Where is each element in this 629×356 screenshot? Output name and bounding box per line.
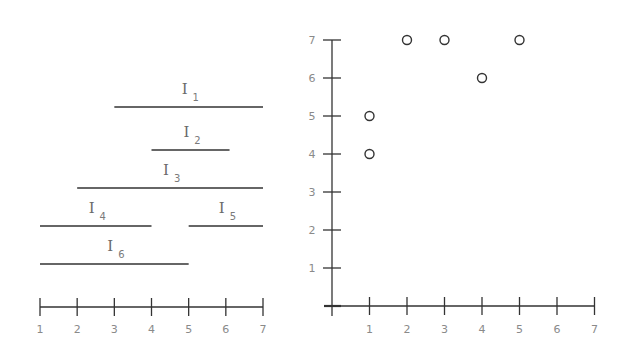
y-tick-label: 6	[309, 72, 316, 85]
x-tick-label: 6	[554, 323, 561, 336]
data-point-marker	[365, 112, 374, 121]
data-point-marker	[403, 36, 412, 45]
x-tick-label: 4	[479, 323, 486, 336]
data-point-marker	[478, 74, 487, 83]
scatter-plot: 12345671234567	[0, 0, 629, 356]
y-tick-label: 7	[309, 34, 316, 47]
y-tick-label: 4	[309, 148, 316, 161]
x-tick-label: 1	[366, 323, 373, 336]
figure: 1234567I1I2I3I4I5I6 12345671234567	[0, 0, 629, 356]
y-tick-label: 1	[309, 262, 316, 275]
data-point-marker	[365, 150, 374, 159]
y-tick-label: 3	[309, 186, 316, 199]
x-tick-label: 2	[404, 323, 411, 336]
y-tick-label: 2	[309, 224, 316, 237]
x-tick-label: 3	[441, 323, 448, 336]
x-tick-label: 5	[516, 323, 523, 336]
x-tick-label: 7	[591, 323, 598, 336]
y-tick-label: 5	[309, 110, 316, 123]
data-point-marker	[440, 36, 449, 45]
data-point-marker	[515, 36, 524, 45]
